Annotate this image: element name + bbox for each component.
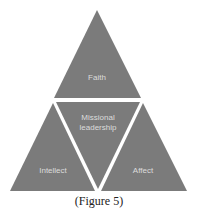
label-affect: Affect (133, 166, 154, 175)
label-missional: Missional (81, 113, 115, 122)
figure-caption: (Figure 5) (0, 194, 198, 209)
label-leadership: leadership (80, 123, 117, 132)
label-intellect: Intellect (39, 166, 67, 175)
label-faith: Faith (88, 73, 106, 82)
pyramid-diagram: Faith Missional leadership Intellect Aff… (0, 0, 198, 216)
segment-top-faith (54, 10, 141, 98)
